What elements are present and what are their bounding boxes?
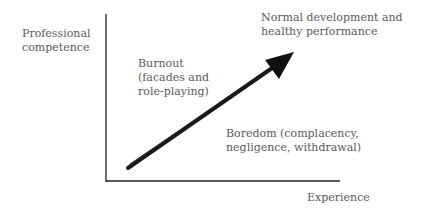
- x-axis-label: Experience: [307, 191, 370, 205]
- y-axis-label: Professional competence: [22, 27, 90, 55]
- arrow-head-icon: [265, 52, 294, 79]
- normal-development-label: Normal development and healthy performan…: [261, 11, 403, 39]
- burnout-label: Burnout (facades and role-playing): [138, 57, 209, 99]
- boredom-label: Boredom (complacency, negligence, withdr…: [226, 127, 361, 155]
